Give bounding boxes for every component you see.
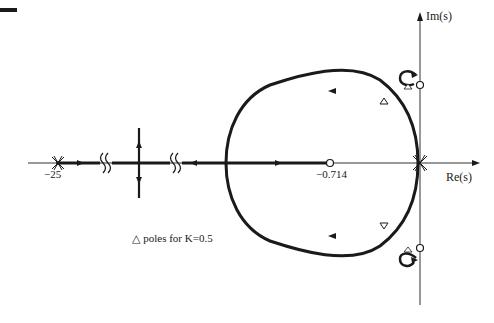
zero-icon [417,82,424,89]
arrow-icon [77,160,84,166]
zero-label: −0.714 [316,168,347,180]
arrow-icon [275,160,282,166]
arrow-icon [136,141,142,148]
imag-axis-arrow-icon [417,12,423,21]
legend-text: △ poles for K=0.5 [132,232,213,245]
arrow-icon [328,88,336,94]
arrow-icon [190,160,197,166]
real-axis-label: Re(s) [446,170,472,185]
k-pole-triangle-icon [380,223,388,229]
arrow-icon [328,233,336,239]
corner-mark [0,8,17,12]
arrow-icon [136,177,142,184]
k-pole-triangle-icon [404,247,412,252]
zero-icon [327,160,334,167]
real-axis-arrow-icon [472,160,480,166]
root-locus-plot [0,0,494,323]
k-pole-triangle-icon [380,98,388,104]
imag-axis-label: Im(s) [426,9,452,24]
zero-icon [417,245,424,252]
pole-label-minus-25: −25 [44,168,61,180]
